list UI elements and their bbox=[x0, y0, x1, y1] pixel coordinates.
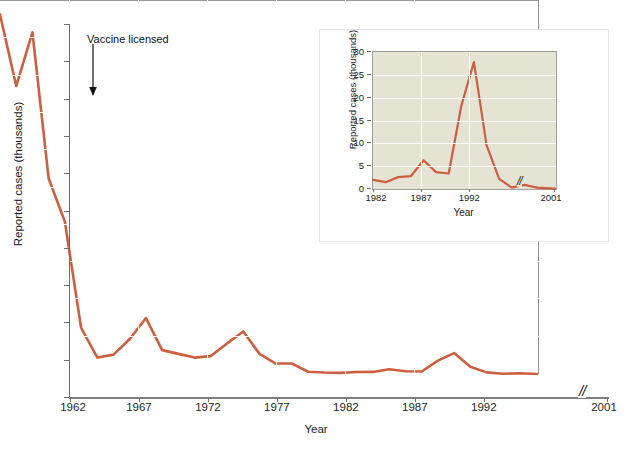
inset-axis-break-symbol: // bbox=[517, 176, 522, 187]
inset-y-tick-label: 0 bbox=[338, 184, 364, 194]
x-tick-label: 1962 bbox=[60, 401, 86, 413]
x-tick-label: 1992 bbox=[471, 401, 497, 413]
main-y-axis-label: Reported cases (thousands) bbox=[12, 94, 24, 254]
measles-incidence-figure: 0 50 100 150 200 250 300 350 400 450 500… bbox=[0, 0, 632, 449]
main-x-axis-label: Year bbox=[0, 423, 632, 435]
main-y-axis bbox=[69, 24, 70, 398]
x-tick-label: 1982 bbox=[333, 401, 359, 413]
x-tick-label: 1977 bbox=[264, 401, 290, 413]
x-tick-label: 1967 bbox=[126, 401, 152, 413]
main-axis-break-symbol: // bbox=[578, 384, 586, 398]
main-x-axis bbox=[69, 397, 609, 399]
inset-x-axis-label: Year bbox=[372, 207, 555, 218]
x-tick-label: 2001 bbox=[591, 401, 617, 413]
inset-x-tick-label: 2001 bbox=[540, 192, 561, 203]
inset-x-tick-label: 1992 bbox=[459, 192, 480, 203]
inset-x-tick-label: 1982 bbox=[365, 192, 386, 203]
annotation-arrow-icon bbox=[86, 44, 100, 99]
inset-y-axis-label: Reported cases (thousands) bbox=[347, 20, 358, 160]
inset-y-tick-label: 5 bbox=[338, 161, 364, 171]
x-tick-label: 1987 bbox=[402, 401, 428, 413]
x-tick-label: 1972 bbox=[195, 401, 221, 413]
inset-plot-area bbox=[372, 51, 557, 190]
inset-x-tick-label: 1987 bbox=[411, 192, 432, 203]
